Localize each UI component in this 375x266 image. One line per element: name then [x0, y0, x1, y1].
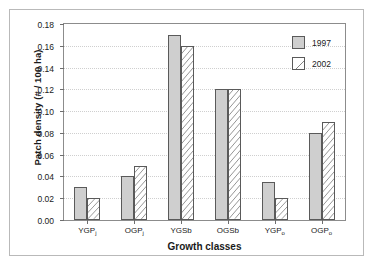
bar-OGPo-2002: [322, 122, 335, 220]
bar-YGSb-2002: [181, 46, 194, 220]
y-tick-mark: 0.14: [60, 68, 64, 69]
y-tick-label: 0.04: [37, 172, 54, 182]
y-tick-mark: 0.16: [60, 46, 64, 47]
hatch-pattern: [229, 90, 240, 219]
hatch-pattern: [323, 123, 334, 219]
x-tick-mark: [228, 220, 229, 224]
hatch-pattern: [135, 167, 146, 219]
gridline: [64, 89, 345, 90]
bar-YGPj-2002: [87, 198, 100, 220]
bar-OGPj-1997: [121, 176, 134, 220]
legend-swatch-1997: [292, 36, 305, 49]
gridline: [64, 198, 345, 199]
hatch-pattern: [276, 199, 287, 219]
x-tick-mark: [134, 220, 135, 224]
plot-area: 0.000.020.040.060.080.100.120.140.160.18…: [63, 23, 346, 221]
y-tick-mark: 0.10: [60, 111, 64, 112]
x-tick-mark: [322, 220, 323, 224]
bar-OGSb-2002: [228, 89, 241, 220]
x-tick-label: YGPj: [78, 226, 96, 235]
x-tick-label: OGPj: [125, 226, 144, 235]
y-tick-label: 0.08: [37, 129, 54, 139]
legend-label: 2002: [312, 59, 331, 69]
y-tick-mark: 0.00: [60, 220, 64, 221]
hatch-pattern: [182, 47, 193, 219]
y-tick-mark: 0.18: [60, 24, 64, 25]
chart-legend: 19972002: [292, 36, 331, 70]
x-tick-mark: [275, 220, 276, 224]
legend-item-1997: 1997: [292, 36, 331, 49]
x-tick-mark: [87, 220, 88, 224]
figure-frame: Patch density (# / 100 ha) 0.000.020.040…: [9, 9, 364, 256]
y-tick-label: 0.12: [37, 85, 54, 95]
legend-label: 1997: [312, 38, 331, 48]
y-tick-label: 0.18: [37, 20, 54, 30]
bar-YGPo-1997: [262, 182, 275, 220]
legend-swatch-2002: [292, 57, 305, 70]
gridline: [64, 155, 345, 156]
y-tick-mark: 0.02: [60, 198, 64, 199]
gridline: [64, 133, 345, 134]
y-tick-label: 0.14: [37, 64, 54, 74]
bar-OGPj-2002: [134, 166, 147, 220]
y-tick-label: 0.10: [37, 107, 54, 117]
bar-YGPj-1997: [74, 187, 87, 220]
bar-YGPo-2002: [275, 198, 288, 220]
y-tick-mark: 0.06: [60, 155, 64, 156]
y-tick-label: 0.02: [37, 194, 54, 204]
x-tick-mark: [181, 220, 182, 224]
y-tick-label: 0.16: [37, 42, 54, 52]
y-tick-mark: 0.12: [60, 89, 64, 90]
legend-item-2002: 2002: [292, 57, 331, 70]
x-tick-label: OGPo: [311, 226, 332, 235]
x-tick-label: YGPo: [265, 226, 285, 235]
bar-OGSb-1997: [215, 89, 228, 220]
hatch-pattern: [88, 199, 99, 219]
bar-OGPo-1997: [309, 133, 322, 220]
x-axis-title: Growth classes: [63, 241, 346, 252]
x-tick-label: YGSb: [170, 226, 191, 235]
y-tick-label: 0.00: [37, 216, 54, 226]
x-tick-label: OGSb: [217, 226, 239, 235]
bar-YGSb-1997: [168, 35, 181, 220]
y-tick-mark: 0.04: [60, 176, 64, 177]
gridline: [64, 111, 345, 112]
gridline: [64, 176, 345, 177]
y-tick-mark: 0.08: [60, 133, 64, 134]
y-tick-label: 0.06: [37, 151, 54, 161]
